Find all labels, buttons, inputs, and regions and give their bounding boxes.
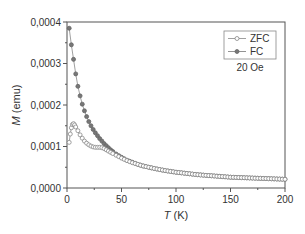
legend: ZFC FC 20 Oe [224, 31, 276, 73]
y-tick-label: 0,0004 [30, 17, 61, 28]
y-axis-label: M(emu) [10, 85, 22, 126]
y-axis: 0,00000,00010,00020,00030,0004 [30, 17, 67, 194]
series-zfc [67, 122, 287, 182]
legend-label-fc: FC [250, 46, 263, 57]
x-tick-label: 0 [64, 194, 70, 205]
x-tick-label: 150 [222, 194, 239, 205]
y-tick-label: 0,0000 [30, 183, 61, 194]
y-tick-label: 0,0003 [30, 58, 61, 69]
legend-label-zfc: ZFC [250, 33, 269, 44]
x-axis: 050100150200 [64, 188, 294, 205]
field-annotation: 20 Oe [236, 62, 264, 73]
x-tick-label: 50 [116, 194, 128, 205]
x-tick-label: 100 [168, 194, 185, 205]
y-tick-label: 0,0001 [30, 141, 61, 152]
chart: 050100150200 0,00000,00010,00020,00030,0… [0, 0, 305, 234]
x-tick-label: 200 [277, 194, 294, 205]
open-circle-marker-icon [235, 37, 239, 41]
x-axis-label: T(K) [164, 209, 188, 221]
y-tick-label: 0,0002 [30, 100, 61, 111]
filled-circle-marker-icon [235, 50, 239, 54]
